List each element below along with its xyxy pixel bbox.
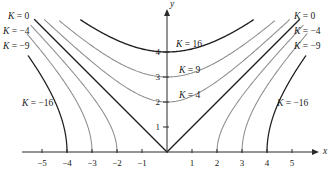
- y-tick-label-4: 4: [156, 48, 161, 57]
- label-k-neg4-left: K = −4: [3, 27, 30, 37]
- x-tick-label--3: −3: [87, 159, 97, 168]
- x-tick-label-1: 1: [190, 159, 195, 168]
- label-k-neg16-right: K = −16: [277, 99, 308, 109]
- x-tick-label--5: −5: [37, 159, 47, 168]
- y-axis-label: y: [170, 0, 174, 10]
- x-tick-label-5: 5: [290, 159, 295, 168]
- label-k-16: K = 16: [176, 40, 202, 50]
- x-tick-label--1: −1: [137, 159, 147, 168]
- label-k-neg16-left: K = −16: [22, 99, 53, 109]
- level-curves-figure: −5−4−3−2−1123451234 K = 0K = −4K = −9K =…: [0, 0, 334, 180]
- x-tick-label--4: −4: [62, 159, 72, 168]
- x-axis-arrowhead: [312, 149, 319, 155]
- label-k-0-right: K = 0: [294, 12, 315, 22]
- curve-k0: [35, 20, 168, 153]
- plot-canvas: [0, 0, 334, 180]
- y-tick-label-2: 2: [156, 98, 161, 107]
- curve-k-9-neg: [242, 34, 307, 152]
- axes-group: [22, 9, 319, 155]
- x-tick-label--2: −2: [112, 159, 122, 168]
- label-k-neg4-right: K = −4: [294, 27, 321, 37]
- y-axis-arrowhead: [164, 9, 170, 16]
- x-tick-label-2: 2: [215, 159, 220, 168]
- y-tick-label-1: 1: [156, 123, 161, 132]
- y-tick-label-3: 3: [156, 73, 161, 82]
- label-k-0-left: K = 0: [8, 12, 29, 22]
- x-axis-label: x: [323, 147, 327, 157]
- x-tick-label-4: 4: [265, 159, 270, 168]
- x-tick-label-3: 3: [240, 159, 245, 168]
- label-k-neg9-left: K = −9: [3, 42, 30, 52]
- label-k-neg9-right: K = −9: [294, 42, 321, 52]
- curve-k-9-neg: [27, 34, 92, 152]
- label-k-9: K = 9: [179, 66, 200, 76]
- label-k-4: K = 4: [179, 91, 200, 101]
